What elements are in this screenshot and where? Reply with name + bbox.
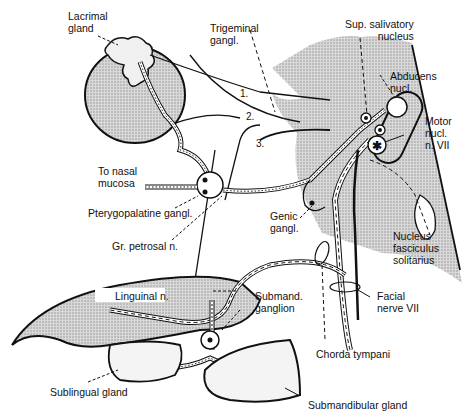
label-nucleus-fasciculus-solitarius: Nucleus fasciculus solitarius <box>393 230 439 266</box>
diagram-artwork: ✱ <box>0 0 462 418</box>
branch-number-1: 1. <box>240 88 248 99</box>
label-genic-gangl: Genic gangl. <box>270 210 299 234</box>
label-lacrimal-gland: Lacrimal gland <box>68 10 108 34</box>
label-motor-nucl: Motor nucl. n. VII <box>425 115 452 151</box>
label-abducens-nucl: Abducens nucl. <box>390 70 437 94</box>
label-to-nasal-mucosa: To nasal mucosa <box>98 165 137 189</box>
sublingual-gland-shape <box>109 342 182 382</box>
label-facial-nerve-vii: Facial nerve VII <box>377 290 419 314</box>
label-submand-ganglion: Submand. ganglion <box>255 290 303 314</box>
submandibular-gland-shape <box>204 340 300 402</box>
label-pterygopalatine-gangl: Pterygopalatine gangl. <box>88 207 193 219</box>
svg-text:✱: ✱ <box>372 139 382 153</box>
label-sup-salivatory-nucleus: Sup. salivatory nucleus <box>345 18 414 42</box>
label-gr-petrosal-n: Gr. petrosal n. <box>112 240 178 252</box>
label-chorda-tympani: Chorda tympani <box>316 348 390 360</box>
label-linguinal-n: Linguinal n. <box>115 290 169 302</box>
branch-number-3: 3. <box>256 138 264 149</box>
label-submandibular-gland: Submandibular gland <box>308 399 407 411</box>
label-trigeminal-gangl: Trigeminal gangl. <box>210 22 259 46</box>
facial-nerve-diagram: ✱ Lacrimal gland Trigeminal gangl. Sup. … <box>0 0 462 418</box>
branch-number-2: 2. <box>246 111 254 122</box>
label-sublingual-gland: Sublingual gland <box>50 386 128 398</box>
